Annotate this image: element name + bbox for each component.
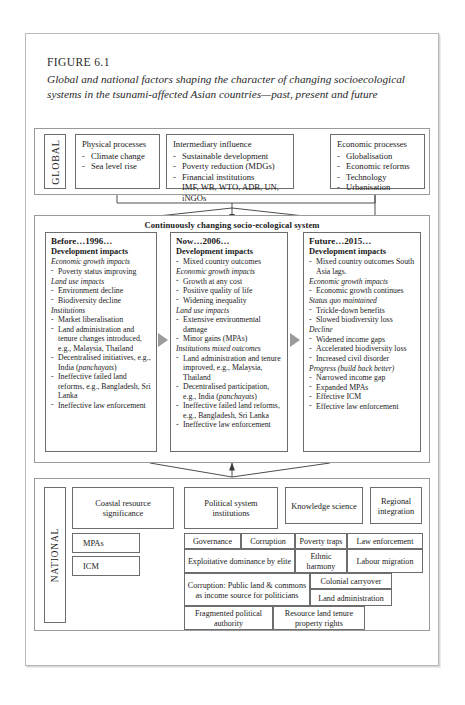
list-item-label: Market liberalisation bbox=[58, 315, 123, 324]
dash-icon: - bbox=[309, 344, 312, 354]
list-item: -Extensive environmental damage bbox=[176, 315, 283, 334]
cell-label: Corruption bbox=[242, 534, 294, 550]
physical-processes-list: -Climate change -Sea level rise bbox=[82, 151, 154, 172]
political-cell-resource-land-tenure: Resource land tenure property rights bbox=[273, 606, 365, 630]
list-item-label: Widening inequality bbox=[183, 296, 247, 305]
list-item-label: Climate change bbox=[91, 151, 145, 161]
global-physical-processes-box: Physical processes -Climate change -Sea … bbox=[75, 134, 160, 189]
political-cell-law-enforcement: Law enforcement bbox=[347, 533, 423, 549]
figure-caption: FIGURE 6.1 Global and national factors s… bbox=[47, 56, 419, 101]
list-item: -Environment decline bbox=[51, 286, 152, 296]
list-item: -Decentralised participation, e.g., Indi… bbox=[176, 382, 283, 401]
dash-icon: - bbox=[173, 161, 176, 172]
block-heading: Institutions mixed outcomes bbox=[176, 344, 283, 354]
dash-icon: - bbox=[176, 257, 179, 267]
dash-icon: - bbox=[337, 182, 340, 193]
knowledge-science-box: Knowledge science bbox=[285, 487, 363, 524]
period-transition-arrow-icon bbox=[158, 333, 168, 347]
cell-label: Poverty traps bbox=[296, 534, 346, 550]
list-item: -Technology bbox=[337, 172, 419, 183]
political-cell-exploitative-dominance: Exploitative dominance by elite bbox=[184, 549, 295, 573]
list-item: -Positive quality of life bbox=[176, 286, 283, 296]
period-now-2006-box: Now…2006… Development impacts -Mixed cou… bbox=[170, 232, 288, 452]
dash-icon: - bbox=[309, 382, 312, 392]
dash-icon: - bbox=[309, 286, 312, 296]
socio-ecological-band-title: Continuously changing socio-ecological s… bbox=[34, 220, 430, 230]
list-item-label: Technology bbox=[346, 172, 386, 182]
cell-label: Fragmented political authority bbox=[185, 607, 272, 631]
list-item-label: Ineffective law enforcement bbox=[183, 420, 271, 429]
dash-icon: - bbox=[176, 353, 179, 363]
list-item-label: Accelerated biodiversity loss bbox=[316, 344, 407, 353]
list-item-label: Urbanisation bbox=[346, 182, 390, 192]
dash-icon: - bbox=[176, 286, 179, 296]
list-item: -Biodiversity decline bbox=[51, 296, 152, 306]
list-item-label: Economic growth continues bbox=[316, 286, 403, 295]
list-item: -Land administration and tenure changes … bbox=[51, 325, 152, 354]
list-item: -Mixed country outcomes South Asia lags. bbox=[309, 257, 416, 276]
economic-processes-heading: Economic processes bbox=[337, 139, 419, 150]
dash-icon: - bbox=[82, 161, 85, 172]
list-item: -Sea level rise bbox=[82, 161, 154, 172]
list-item-label: Extensive environmental damage bbox=[183, 315, 261, 334]
cell-label: Corruption: Public land & commons as inc… bbox=[185, 574, 309, 607]
list-item: -Poverty status improving bbox=[51, 267, 152, 277]
mpas-label: MPAs bbox=[73, 534, 139, 554]
figure-label: FIGURE 6.1 bbox=[47, 56, 419, 68]
block-list: -Market liberalisation -Land administrat… bbox=[51, 315, 152, 410]
dash-icon: - bbox=[51, 324, 54, 334]
dash-icon: - bbox=[173, 172, 176, 183]
cell-label: Exploitative dominance by elite bbox=[185, 550, 294, 574]
list-item: -Economic growth continues bbox=[309, 286, 416, 296]
global-label-text: GLOBAL bbox=[50, 139, 61, 184]
dash-icon: - bbox=[176, 315, 179, 325]
list-item: -Sustainable development bbox=[173, 151, 288, 162]
period-transition-arrow-icon bbox=[290, 333, 300, 347]
list-item-label: Financial institutions bbox=[182, 172, 254, 182]
dash-icon: - bbox=[309, 315, 312, 325]
list-item: -Ineffective failed land reforms, e.g., … bbox=[51, 372, 152, 401]
list-item: -Expanded MPAs bbox=[309, 383, 416, 393]
economic-processes-list: -Globalisation -Economic reforms -Techno… bbox=[337, 151, 419, 193]
global-economic-processes-box: Economic processes -Globalisation -Econo… bbox=[330, 134, 425, 189]
cell-label: Ethnic harmony bbox=[296, 550, 346, 574]
list-item-label: Narrowed income gap bbox=[316, 373, 385, 382]
cell-label: Land administration bbox=[311, 590, 391, 607]
block-heading: Land use impacts bbox=[51, 277, 152, 287]
dash-icon: - bbox=[337, 172, 340, 183]
dash-icon: - bbox=[176, 276, 179, 286]
dash-icon: - bbox=[176, 295, 179, 305]
block-list: -Widened income gaps -Accelerated biodiv… bbox=[309, 335, 416, 364]
coastal-resource-significance-box: Coastal resource significance bbox=[72, 487, 174, 529]
block-list: -Land administration and tenure improved… bbox=[176, 354, 283, 430]
dash-icon: - bbox=[309, 401, 312, 411]
dash-icon: - bbox=[51, 295, 54, 305]
cell-label: Colonial carryover bbox=[311, 574, 391, 590]
period-title: Now…2006… bbox=[176, 237, 283, 247]
list-item: -Economic reforms bbox=[337, 161, 419, 172]
coastal-title: Coastal resource significance bbox=[73, 488, 173, 530]
list-item: -Effective law enforcement bbox=[309, 402, 416, 412]
list-item-label: Expanded MPAs bbox=[316, 383, 368, 392]
list-item: -Market liberalisation bbox=[51, 315, 152, 325]
list-item: -Decentralised initiatives, e.g., India … bbox=[51, 353, 152, 372]
physical-processes-heading: Physical processes bbox=[82, 139, 154, 150]
period-future-2015-box: Future…2015… Development impacts -Mixed … bbox=[303, 232, 421, 452]
dash-icon: - bbox=[176, 382, 179, 392]
political-cell-ethnic-harmony: Ethnic harmony bbox=[295, 549, 347, 573]
list-item-label: Slowed biodiversity loss bbox=[316, 315, 393, 324]
block-list: -Trickle-down benefits -Slowed biodivers… bbox=[309, 306, 416, 325]
list-item: -Ineffective law enforcement bbox=[176, 420, 283, 430]
list-item-label: Ineffective failed land reforms, e.g., B… bbox=[183, 401, 280, 420]
global-intermediary-influence-box: Intermediary influence -Sustainable deve… bbox=[166, 134, 294, 189]
block-list: -Poverty status improving bbox=[51, 267, 152, 277]
political-cell-land-administration: Land administration bbox=[310, 589, 392, 606]
political-cell-corruption-public-land: Corruption: Public land & commons as inc… bbox=[184, 573, 310, 606]
list-item-label: Effective ICM bbox=[316, 392, 361, 401]
block-heading: Economic growth impacts bbox=[309, 277, 416, 287]
dash-icon: - bbox=[51, 315, 54, 325]
list-item-label: Land administration and tenure changes i… bbox=[58, 325, 142, 353]
block-heading: Economic growth impacts bbox=[51, 257, 152, 267]
list-item-label: Ineffective law enforcement bbox=[58, 401, 146, 410]
dash-icon: - bbox=[51, 353, 54, 363]
